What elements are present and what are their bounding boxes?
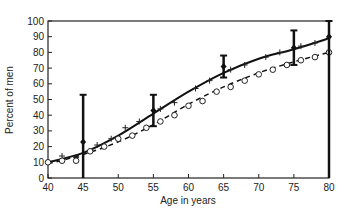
- y-tick-label: 40: [33, 110, 45, 121]
- y-tick-label: 30: [33, 125, 45, 136]
- plot-area: [45, 21, 332, 178]
- circle-marker: [214, 89, 220, 95]
- circle-marker: [73, 158, 79, 164]
- circle-marker: [186, 103, 192, 109]
- y-tick-label: 100: [27, 16, 44, 27]
- circle-marker: [228, 84, 234, 90]
- circle-marker: [144, 125, 150, 131]
- y-tick-label: 70: [33, 63, 45, 74]
- circle-marker: [200, 98, 206, 104]
- circle-marker: [59, 158, 65, 164]
- y-axis-label: Percent of men: [4, 66, 15, 134]
- x-tick-label: 80: [323, 182, 335, 193]
- diamond-marker: [80, 138, 86, 145]
- circle-marker: [298, 57, 304, 63]
- circle-marker: [115, 136, 121, 142]
- circle-marker: [87, 149, 93, 155]
- y-tick-label: 20: [33, 141, 45, 152]
- x-axis-label: Age in years: [160, 195, 216, 206]
- y-tick-label: 60: [33, 78, 45, 89]
- plus-marker: [228, 67, 234, 73]
- x-tick-label: 70: [253, 182, 265, 193]
- circle-marker: [284, 62, 290, 68]
- circle-marker: [256, 72, 262, 78]
- circle-marker: [45, 160, 51, 166]
- y-tick-label: 10: [33, 157, 45, 168]
- circle-marker: [101, 144, 107, 150]
- circle-marker: [158, 119, 164, 125]
- x-tick-label: 40: [42, 182, 54, 193]
- circle-marker: [130, 133, 136, 139]
- circle-marker: [312, 54, 318, 60]
- x-tick-label: 75: [288, 182, 300, 193]
- plus-marker: [277, 49, 283, 55]
- x-tick-label: 65: [218, 182, 230, 193]
- diamond-marker: [221, 63, 227, 70]
- x-tick-label: 55: [148, 182, 160, 193]
- y-tick-label: 90: [33, 31, 45, 42]
- circle-marker: [242, 78, 248, 84]
- circle-marker: [172, 112, 178, 118]
- circle-marker: [270, 67, 276, 73]
- plus-marker: [312, 40, 318, 46]
- y-tick-label: 80: [33, 47, 45, 58]
- chart: 0102030405060708090100404550556065707580…: [0, 0, 347, 213]
- x-tick-label: 60: [183, 182, 195, 193]
- x-tick-label: 50: [113, 182, 125, 193]
- x-tick-label: 45: [78, 182, 90, 193]
- y-tick-label: 50: [33, 94, 45, 105]
- axes: 0102030405060708090100404550556065707580: [27, 16, 335, 194]
- solid-curve: [48, 38, 329, 162]
